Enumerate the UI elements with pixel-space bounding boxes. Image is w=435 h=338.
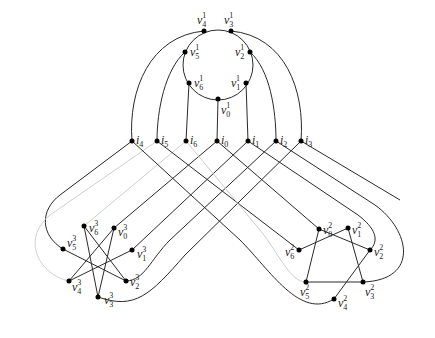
vertex-i1: [246, 139, 251, 144]
label-i6: i6: [190, 133, 197, 149]
vertex-v3-4: [67, 279, 72, 284]
label-i4: i4: [136, 133, 143, 149]
label-i5: i5: [161, 133, 168, 149]
vertex-i2: [274, 139, 279, 144]
label-v3-0: v03: [118, 223, 127, 241]
vertex-v3-5: [61, 247, 66, 252]
vertex-v1-5: [183, 50, 188, 55]
vertex-v3-2: [124, 279, 129, 284]
vertex-v3-3: [96, 295, 101, 300]
label-v2-4: v42: [338, 294, 347, 312]
vertex-i5: [155, 139, 160, 144]
label-v2-1: v12: [352, 221, 361, 239]
vertex-v1-0: [216, 97, 221, 102]
label-v1-0: v01: [221, 101, 230, 119]
label-v1-1: v11: [231, 74, 240, 92]
vertex-i0: [215, 139, 220, 144]
label-v1-6: v61: [194, 74, 203, 92]
label-v2-6: v62: [285, 243, 294, 261]
label-v1-3: v31: [224, 11, 233, 29]
vertex-v1-4: [202, 29, 207, 34]
vertex-i4: [130, 139, 135, 144]
vertex-v2-6: [297, 248, 302, 253]
vertex-i3: [299, 139, 304, 144]
vertex-v2-0: [317, 227, 322, 232]
label-v3-6: v63: [89, 219, 98, 237]
label-v3-1: v13: [137, 245, 146, 263]
vertex-v3-6: [82, 224, 87, 229]
label-i3: i3: [305, 133, 312, 149]
vertex-v3-1: [130, 248, 135, 253]
vertex-v1-3: [229, 29, 234, 34]
label-i1: i1: [252, 133, 259, 149]
label-v2-0: v02: [323, 221, 332, 239]
vertex-v2-4: [332, 297, 337, 302]
vertex-v2-1: [346, 226, 351, 231]
vertex-v1-6: [187, 81, 192, 86]
vertex-v3-0: [112, 226, 117, 231]
top-to-connector-edges: [132, 31, 302, 141]
label-i2: i2: [280, 133, 287, 149]
vertex-v2-3: [361, 280, 366, 285]
label-v3-3: v33: [104, 291, 113, 309]
label-i0: i0: [221, 133, 228, 149]
label-v3-5: v53: [67, 234, 76, 252]
label-v3-4: v43: [72, 278, 81, 296]
vertex-v2-2: [368, 248, 373, 253]
vertex-v1-1: [244, 81, 249, 86]
vertex-v1-2: [248, 50, 253, 55]
label-v2-5: v52: [300, 283, 309, 301]
vertex-i6: [184, 139, 189, 144]
label-v1-5: v51: [190, 43, 199, 61]
label-v1-2: v21: [235, 43, 244, 61]
label-v3-2: v23: [130, 273, 139, 291]
label-v2-3: v32: [365, 283, 374, 301]
graph-diagram: v01 v11 v21 v31 v41 v51 v61 i4 i5 i6 i0 …: [0, 0, 435, 338]
label-v2-2: v22: [374, 243, 383, 261]
label-v1-4: v41: [197, 11, 206, 29]
